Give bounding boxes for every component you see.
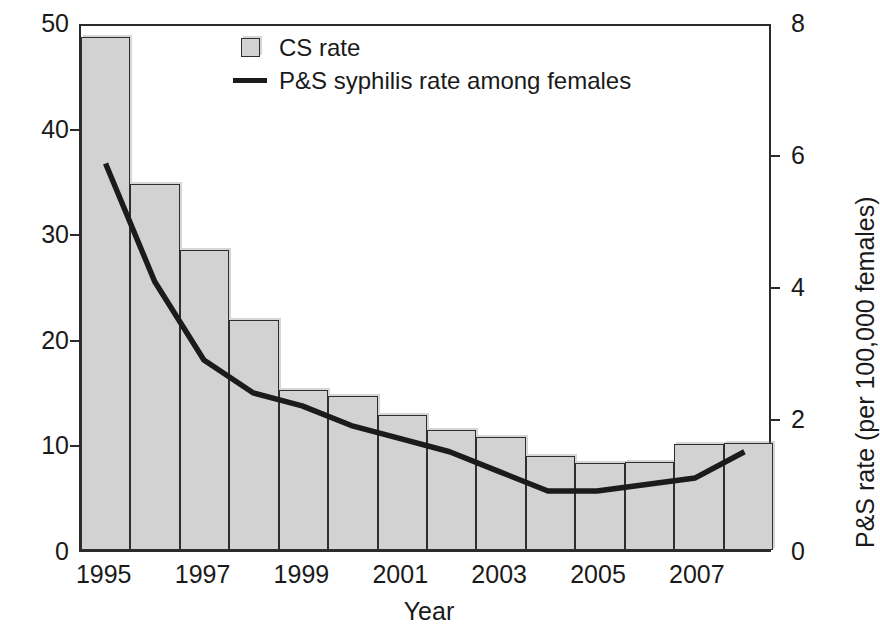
y-axis-left-tick-label: 0 [55, 539, 69, 564]
legend-label-cs-rate: CS rate [271, 34, 360, 62]
plot-area [79, 24, 771, 552]
legend-item-cs-rate: CS rate [229, 34, 631, 61]
y-axis-left-tick-mark [70, 234, 79, 236]
x-axis-tick-label: 2001 [372, 562, 428, 587]
line-swatch-icon [229, 78, 271, 83]
y-axis-right-tick-label: 4 [791, 275, 805, 300]
y-axis-left-tick-mark [70, 340, 79, 342]
y-axis-left-tick-label: 30 [41, 222, 69, 247]
y-axis-left-tick-mark [70, 445, 79, 447]
y-axis-right-tick-label: 0 [791, 539, 805, 564]
y-axis-right-tick-label: 2 [791, 407, 805, 432]
y-axis-right-tick-mark [771, 419, 780, 421]
x-axis-title: Year [0, 597, 858, 626]
y-axis-left-tick-label: 20 [41, 328, 69, 353]
x-axis-tick-label: 1997 [175, 562, 231, 587]
y-axis-left-tick-label: 10 [41, 433, 69, 458]
x-axis-tick-label: 1995 [76, 562, 132, 587]
y-axis-left-tick-mark [70, 129, 79, 131]
y-axis-right-title: P&S rate (per 100,000 females) [851, 28, 880, 548]
y-axis-right-tick-label: 8 [791, 11, 805, 36]
x-axis-tick-label: 2007 [669, 562, 725, 587]
x-axis-tick-label: 2005 [570, 562, 626, 587]
legend-item-ps-syphilis-rate: P&S syphilis rate among females [229, 67, 631, 94]
line-series-ps-syphilis-rate [81, 26, 769, 550]
x-axis-tick-label: 2003 [471, 562, 527, 587]
y-axis-right-tick-mark [771, 155, 780, 157]
chart-legend: CS rate P&S syphilis rate among females [229, 34, 631, 100]
y-axis-right-tick-mark [771, 287, 780, 289]
bar-swatch-icon [229, 38, 271, 57]
y-axis-right-tick-label: 6 [791, 143, 805, 168]
y-axis-left-tick-label: 40 [41, 117, 69, 142]
x-axis-tick-label: 1999 [274, 562, 330, 587]
y-axis-left-tick-label: 50 [41, 11, 69, 36]
legend-label-ps-syphilis-rate: P&S syphilis rate among females [271, 67, 631, 95]
